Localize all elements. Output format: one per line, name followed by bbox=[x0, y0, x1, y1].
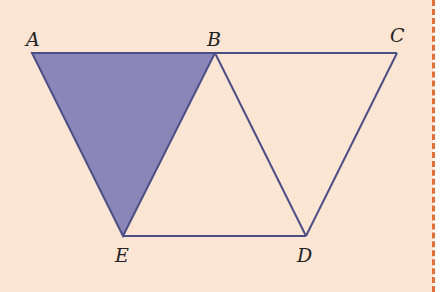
segment-cd bbox=[306, 53, 397, 236]
label-d: D bbox=[296, 244, 312, 266]
segment-bd bbox=[215, 53, 306, 236]
shaded-triangle-abe bbox=[32, 53, 215, 236]
geometry-figure: A B C E D bbox=[0, 0, 442, 292]
label-b: B bbox=[206, 28, 221, 50]
label-c: C bbox=[390, 24, 405, 46]
label-a: A bbox=[24, 28, 40, 50]
label-e: E bbox=[114, 244, 129, 266]
